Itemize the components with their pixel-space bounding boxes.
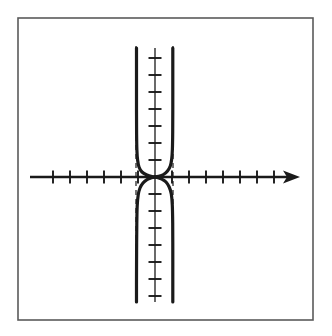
graph-canvas xyxy=(0,0,332,336)
canvas-background xyxy=(0,0,332,336)
figure-root xyxy=(0,0,332,336)
